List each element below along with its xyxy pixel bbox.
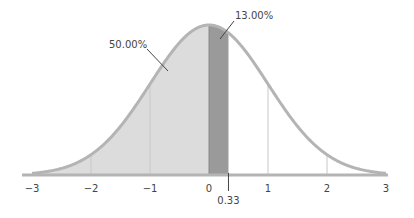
x-tick-label: 1 — [265, 183, 271, 194]
x-tick-label: −1 — [143, 183, 158, 194]
marker-label: 0.33 — [217, 195, 239, 206]
value-marker: 0.33 — [217, 173, 239, 206]
annotation-label: 13.00% — [235, 10, 273, 21]
region-band — [209, 25, 228, 175]
x-axis-tick-labels: −3−2−10123 — [25, 183, 390, 194]
normal-distribution-chart: −3−2−10123 0.33 50.00%13.00% — [0, 0, 414, 218]
x-tick-label: 2 — [324, 183, 330, 194]
x-tick-label: 0 — [206, 183, 212, 194]
x-tick-label: −2 — [84, 183, 99, 194]
x-tick-label: −3 — [25, 183, 40, 194]
chart-canvas: −3−2−10123 0.33 50.00%13.00% — [0, 0, 414, 218]
annotation-label: 50.00% — [109, 39, 147, 50]
x-tick-label: 3 — [383, 183, 389, 194]
